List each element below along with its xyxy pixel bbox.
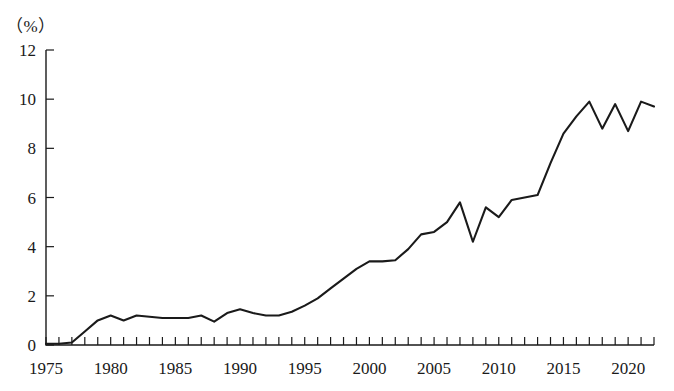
x-tick-label-1980: 1980 [94,359,128,378]
y-tick-label-6: 6 [28,189,37,208]
y-tick-label-0: 0 [28,336,37,355]
x-tick-label-1985: 1985 [158,359,192,378]
y-tick-label-10: 10 [19,90,36,109]
y-tick-label-2: 2 [28,287,37,306]
line-chart-plot: 024681012 197519801985199019952000200520… [0,0,674,391]
y-axis-ticks [46,50,54,345]
x-tick-label-2005: 2005 [417,359,451,378]
chart-container: （%） 024681012 19751980198519901995200020… [0,0,674,391]
x-tick-label-2010: 2010 [482,359,516,378]
x-tick-label-1990: 1990 [223,359,257,378]
x-tick-label-2000: 2000 [352,359,386,378]
y-tick-label-8: 8 [28,139,37,158]
x-tick-label-2015: 2015 [546,359,580,378]
x-tick-label-1975: 1975 [29,359,63,378]
y-tick-label-12: 12 [19,41,36,60]
data-series [46,102,654,344]
x-axis-tick-labels: 1975198019851990199520002005201020152020 [29,359,645,378]
x-tick-label-1995: 1995 [288,359,322,378]
y-tick-label-4: 4 [28,238,37,257]
data-line-value [46,102,654,344]
y-axis-tick-labels: 024681012 [19,41,37,355]
x-axis-ticks [46,337,654,345]
x-tick-label-2020: 2020 [611,359,645,378]
axes [46,50,654,345]
